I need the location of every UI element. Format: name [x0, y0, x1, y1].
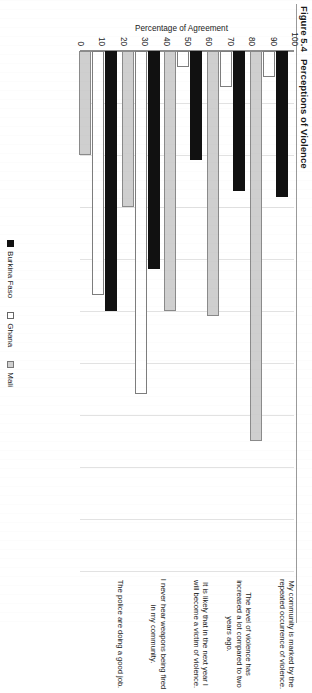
white-square-icon	[7, 312, 14, 319]
chart-legend: Burkina FasoGhanaMali	[6, 0, 15, 627]
bar-mali[interactable]	[122, 51, 134, 207]
legend-label: Burkina Faso	[6, 251, 15, 298]
y-tick-30: 30	[140, 37, 148, 46]
bar-group	[123, 51, 166, 570]
legend-label: Ghana	[6, 323, 15, 347]
category-label: It is likely that in the next year I wil…	[192, 578, 211, 690]
legend-item[interactable]: Burkina Faso	[6, 240, 15, 298]
legend-label: Mali	[6, 372, 15, 387]
bar-ghana[interactable]	[263, 51, 275, 77]
y-tick-50: 50	[183, 37, 191, 46]
plot-area: Percentage of Agreement 0102030405060708…	[42, 0, 294, 627]
figure-number: Figure 5.4	[299, 6, 310, 52]
y-tick-70: 70	[226, 37, 234, 46]
bar-burkina-faso[interactable]	[233, 51, 245, 191]
bar-burkina-faso[interactable]	[276, 51, 288, 197]
bar-ghana[interactable]	[220, 51, 232, 87]
y-tick-0: 0	[76, 41, 84, 46]
black-square-icon	[7, 240, 14, 247]
figure-title: Figure 5.4Perceptions of Violence	[299, 6, 310, 169]
category-labels: My community is marked by the repeated o…	[80, 578, 294, 693]
bar-group	[166, 51, 209, 570]
bar-ghana[interactable]	[135, 51, 147, 394]
title-divider	[296, 4, 297, 623]
y-tick-20: 20	[119, 37, 127, 46]
category-label: The police are doing a good job.	[115, 578, 124, 690]
figure-title-text: Perceptions of Violence	[299, 59, 310, 169]
bar-mali[interactable]	[207, 51, 219, 316]
category-label: I never hear weapons being fired in my c…	[149, 578, 168, 690]
category-label: My community is marked by the repeated o…	[277, 578, 296, 690]
y-tick-40: 40	[162, 37, 170, 46]
y-tick-100: 100	[290, 32, 298, 46]
bar-plot-canvas	[80, 50, 294, 570]
bar-mali[interactable]	[164, 51, 176, 311]
gridline-100	[80, 571, 294, 572]
legend-item[interactable]: Ghana	[6, 312, 15, 347]
bar-ghana[interactable]	[177, 51, 189, 67]
category-label: The level of violence has increased a lo…	[225, 578, 253, 690]
y-axis-tick-labels: 0102030405060708090100	[80, 26, 294, 48]
gray-square-icon	[7, 361, 14, 368]
bar-group	[80, 51, 123, 570]
y-tick-10: 10	[97, 37, 105, 46]
bar-ghana[interactable]	[92, 51, 104, 295]
y-tick-80: 80	[247, 37, 255, 46]
bar-mali[interactable]	[79, 51, 91, 155]
bar-burkina-faso[interactable]	[190, 51, 202, 160]
bar-burkina-faso[interactable]	[148, 51, 160, 269]
bar-group	[251, 51, 294, 570]
y-tick-60: 60	[204, 37, 212, 46]
y-tick-90: 90	[269, 37, 277, 46]
bar-group	[208, 51, 251, 570]
bar-mali[interactable]	[250, 51, 262, 441]
bar-burkina-faso[interactable]	[105, 51, 117, 311]
legend-item[interactable]: Mali	[6, 361, 15, 387]
